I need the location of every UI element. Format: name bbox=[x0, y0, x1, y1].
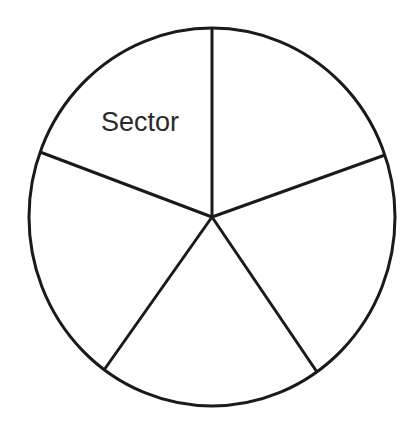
sector-diagram-canvas: Sector bbox=[0, 0, 410, 435]
sector-diagram-svg: Sector bbox=[0, 0, 410, 435]
sector-label: Sector bbox=[101, 107, 179, 137]
